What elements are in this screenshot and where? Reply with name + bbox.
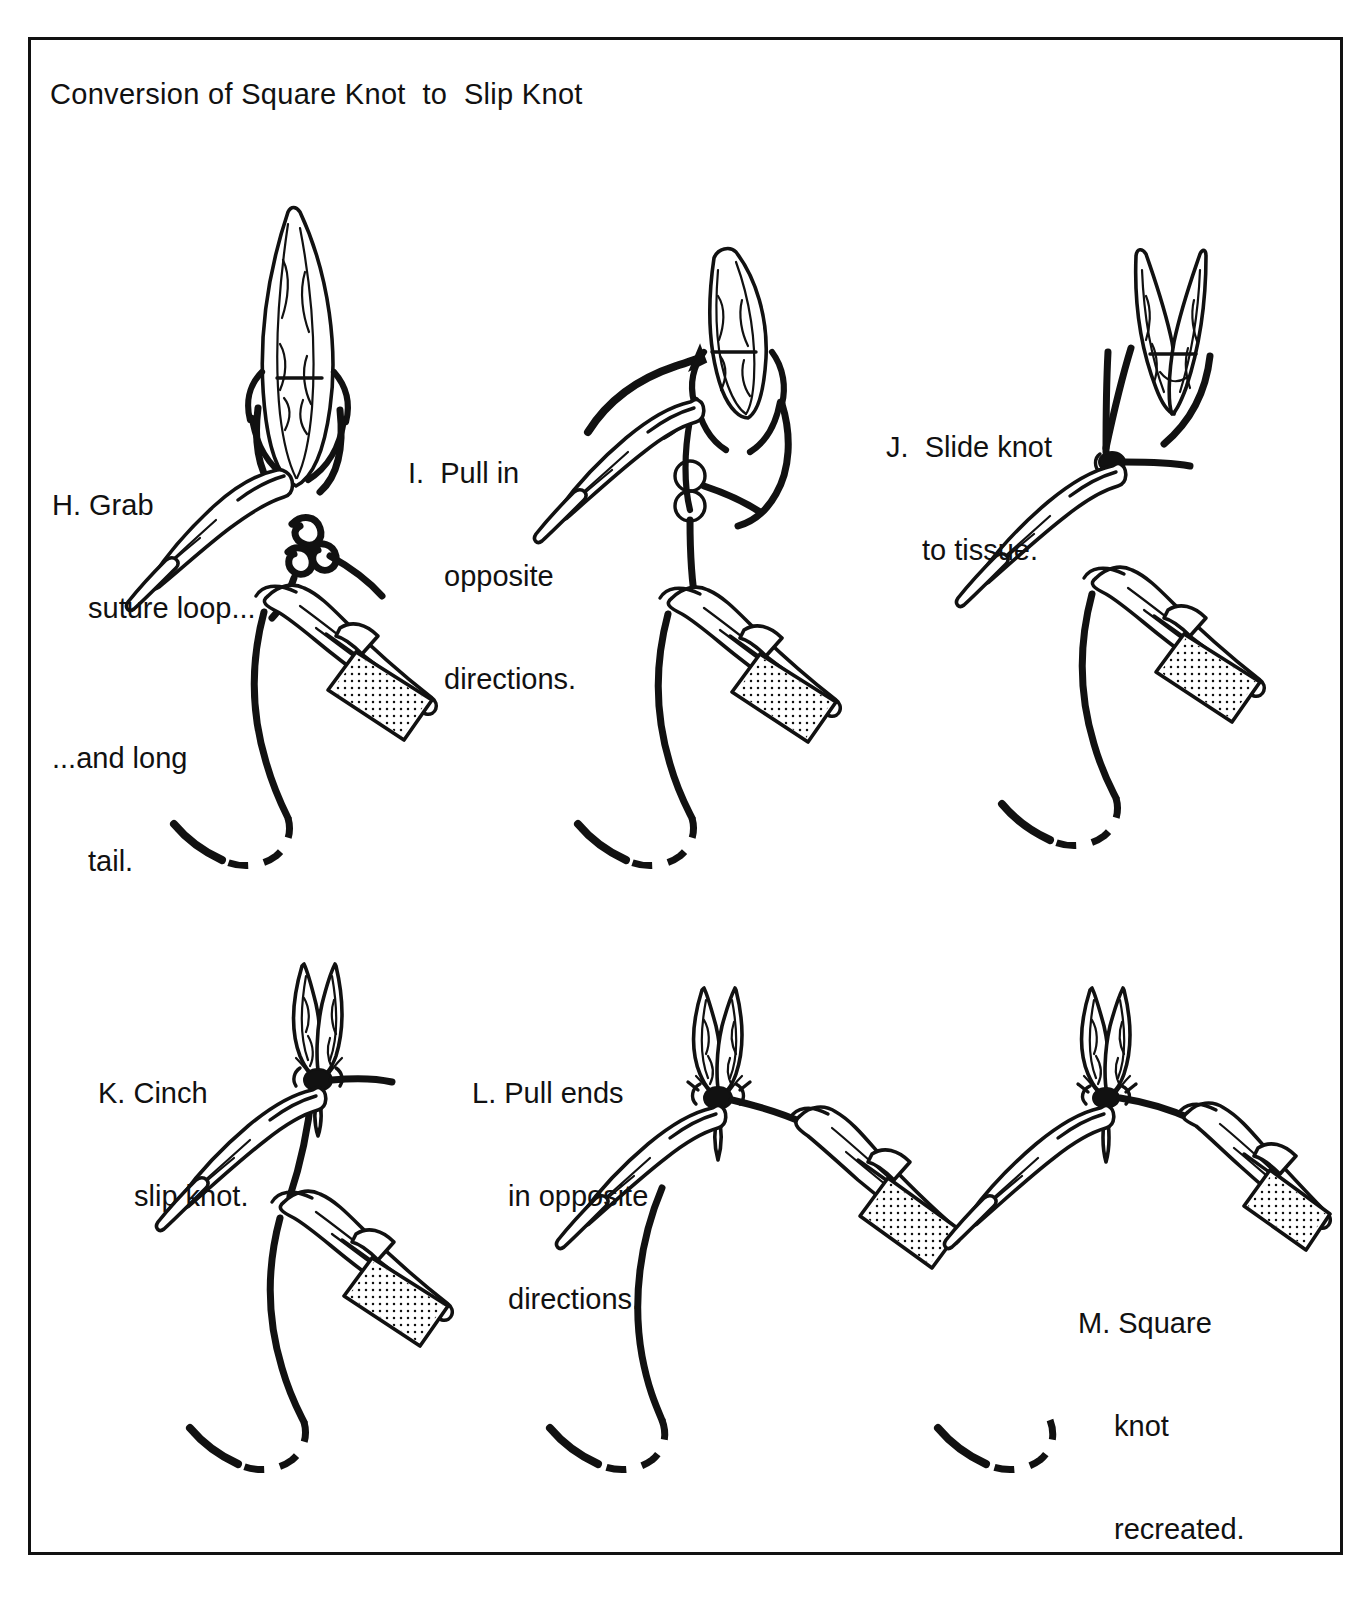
caption-line: L. Pull ends <box>472 1076 648 1110</box>
caption-line: tail. <box>52 844 187 878</box>
caption-line: directions. <box>408 662 576 696</box>
caption-line: in opposite <box>472 1179 648 1213</box>
caption-line: directions. <box>472 1282 648 1316</box>
caption-line: M. Square <box>1078 1306 1245 1340</box>
panel-I-caption: I. Pull in opposite directions. <box>408 388 576 730</box>
panel-K-caption: K. Cinch slip knot. <box>98 1008 248 1248</box>
caption-line: H. Grab <box>52 488 256 522</box>
caption-line: knot <box>1078 1409 1245 1443</box>
figure-title: Conversion of Square Knot to Slip Knot <box>50 78 583 111</box>
panel-H-caption-secondary: ...and long tail. <box>52 673 187 913</box>
caption-line: opposite <box>408 559 576 593</box>
panel-M-caption: M. Square knot recreated. <box>1078 1238 1245 1580</box>
panel-L-caption: L. Pull ends in opposite directions. <box>472 1008 648 1350</box>
panel-H-caption-primary: H. Grab suture loop... <box>52 420 256 660</box>
caption-line: to tissue. <box>886 533 1052 567</box>
caption-line: slip knot. <box>98 1179 248 1213</box>
caption-line: J. Slide knot <box>886 430 1052 464</box>
panel-J-caption: J. Slide knot to tissue. <box>886 362 1052 602</box>
caption-line: K. Cinch <box>98 1076 248 1110</box>
caption-line: suture loop... <box>52 591 256 625</box>
caption-line: I. Pull in <box>408 456 576 490</box>
caption-line: ...and long <box>52 741 187 775</box>
caption-line: recreated. <box>1078 1512 1245 1546</box>
